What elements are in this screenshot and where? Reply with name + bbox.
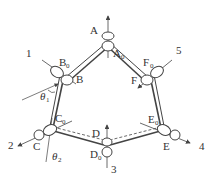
joint-e [170,130,180,140]
label-e0: E [148,113,155,125]
label-e0-sub: 0 [155,119,159,127]
label-e: E [163,140,170,152]
axis-label-4: 4 [199,140,205,152]
joint-b [61,75,73,85]
axis-label-3: 3 [111,163,117,175]
joint-labels: A A 0 B 0 B F 0 F C 0 C E 0 E D D 0 [33,24,170,162]
angle-theta1-sub: 1 [46,96,50,104]
label-a0: A [113,47,121,59]
label-a0-sub: 0 [121,53,125,61]
label-f: F [131,74,137,86]
joint-d0 [102,147,112,157]
joint-f [141,75,153,85]
label-a: A [90,24,98,36]
label-f0: F [143,56,149,68]
label-b0-sub: 0 [66,62,70,70]
joint-a [102,32,114,40]
joint-c [34,130,44,140]
joint-d [102,138,112,146]
linkage-diagram: A A 0 B 0 B F 0 F C 0 C E 0 E D D 0 1 2 … [0,0,217,183]
label-d0: D [90,148,98,160]
axis-label-5: 5 [176,44,182,56]
axis-label-1: 1 [26,47,32,59]
label-d0-sub: 0 [98,154,102,162]
label-b: B [76,73,83,85]
label-d: D [92,127,100,139]
label-f0-sub: 0 [150,62,154,70]
diagram-canvas: A A 0 B 0 B F 0 F C 0 C E 0 E D D 0 1 2 … [0,0,217,183]
label-c: C [33,140,40,152]
axis-label-2: 2 [8,139,14,151]
angle-theta2-sub: 2 [58,156,62,164]
label-c0-sub: 0 [62,118,66,126]
